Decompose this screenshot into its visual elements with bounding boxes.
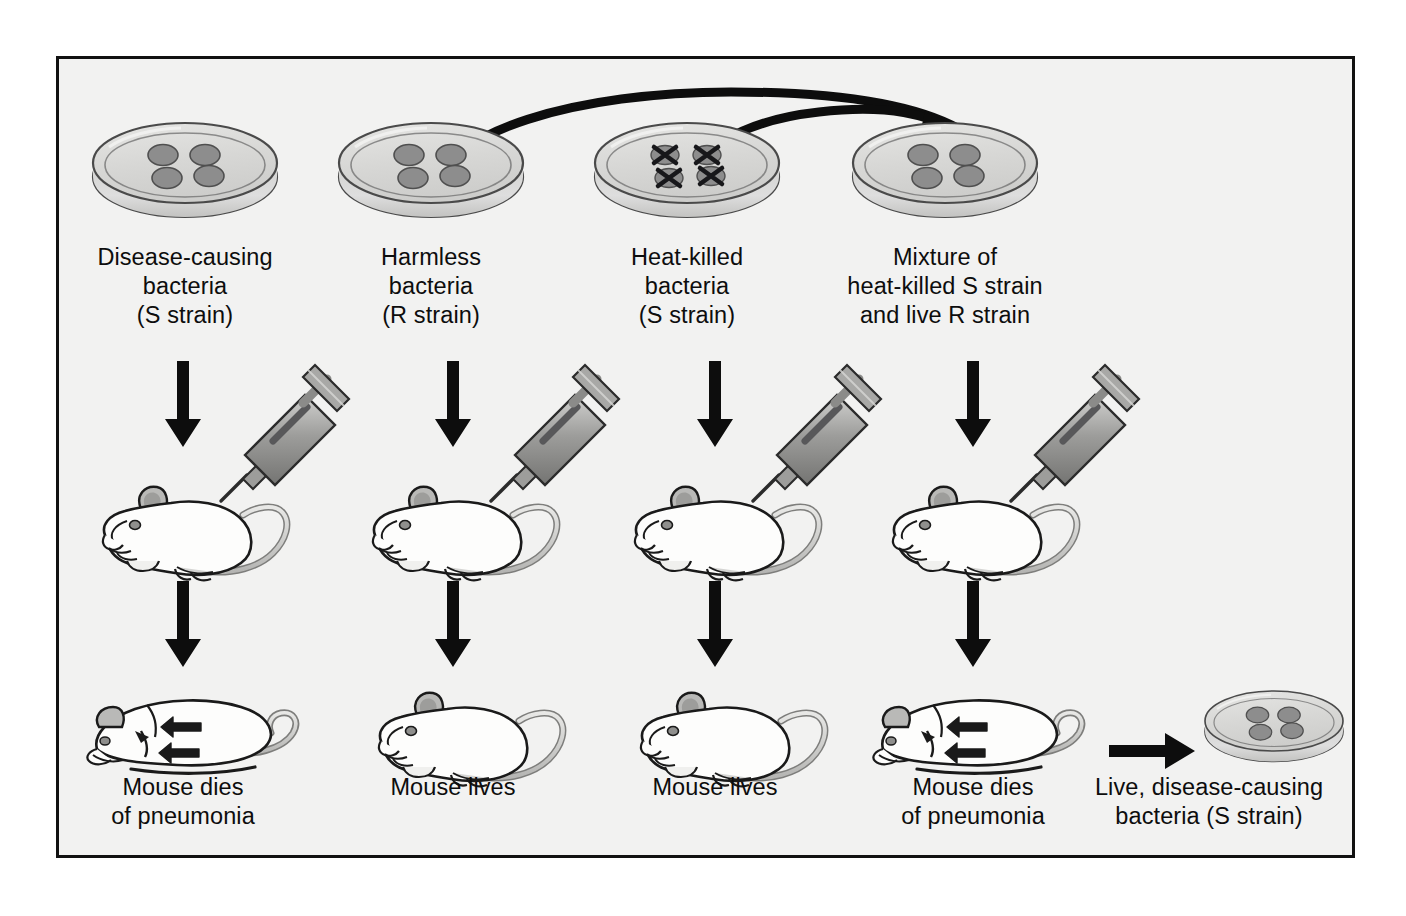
- live-mouse-injected-2: [373, 487, 557, 581]
- result-caption-1: Mouse dies of pneumonia: [56, 773, 333, 831]
- dish-caption-4: Mixture of heat-killed S strain and live…: [795, 243, 1095, 330]
- diagram-artwork: [59, 59, 1355, 858]
- result-caption-2: Mouse lives: [303, 773, 603, 802]
- live-mouse-injected-3: [635, 487, 819, 581]
- dead-mouse-result-4: [873, 700, 1081, 773]
- recovered-dish-caption: Live, disease-causing bacteria (S strain…: [1059, 773, 1355, 831]
- petri-dish-recovered-s-strain: [1205, 691, 1343, 762]
- downward-arrow-inject-1: [165, 361, 201, 447]
- syringe-1: [221, 365, 349, 501]
- diagram-stage: Disease-causing bacteria (S strain) Harm…: [59, 59, 1352, 855]
- dish-caption-3: Heat-killed bacteria (S strain): [537, 243, 837, 330]
- syringe-4: [1011, 365, 1139, 501]
- petri-dish-heat-killed: [595, 123, 779, 217]
- downward-arrow-outcome-4: [955, 581, 991, 667]
- downward-arrow-inject-4: [955, 361, 991, 447]
- result-caption-3: Mouse lives: [565, 773, 865, 802]
- dish-caption-2: Harmless bacteria (R strain): [281, 243, 581, 330]
- petri-dish-harmless: [339, 123, 523, 217]
- live-mouse-injected-1: [103, 487, 287, 581]
- figure-frame: Disease-causing bacteria (S strain) Harm…: [56, 56, 1355, 858]
- syringe-2: [491, 365, 619, 501]
- dead-mouse-result-1: [87, 700, 295, 773]
- downward-arrow-outcome-2: [435, 581, 471, 667]
- petri-dish-mixture: [853, 123, 1037, 217]
- downward-arrow-inject-3: [697, 361, 733, 447]
- downward-arrow-outcome-3: [697, 581, 733, 667]
- rightward-arrow-recover: [1109, 733, 1195, 769]
- downward-arrow-inject-2: [435, 361, 471, 447]
- syringe-3: [753, 365, 881, 501]
- downward-arrow-outcome-1: [165, 581, 201, 667]
- petri-dish-disease-causing: [93, 123, 277, 217]
- live-mouse-injected-4: [893, 487, 1077, 581]
